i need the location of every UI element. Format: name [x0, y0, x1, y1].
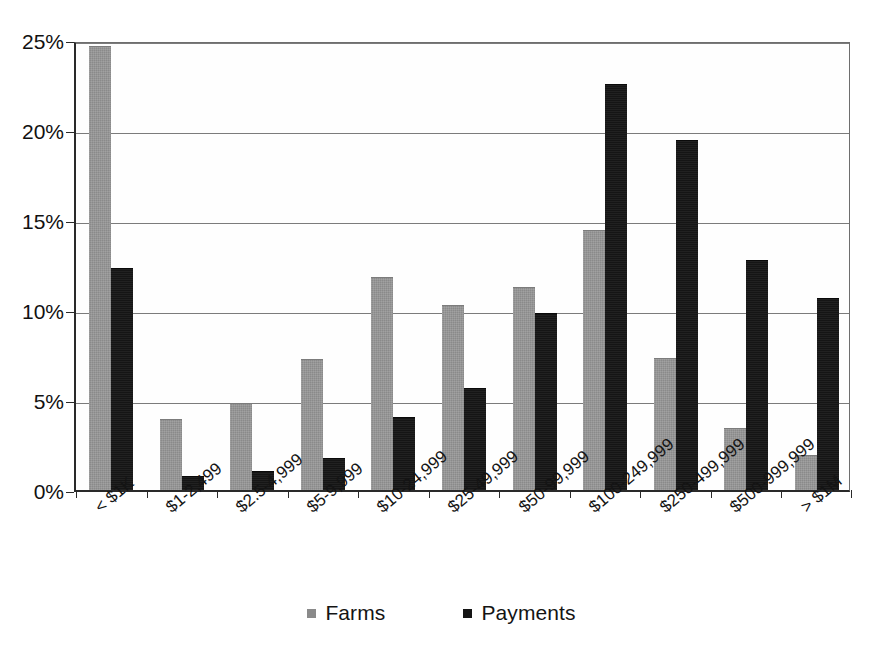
gridline [76, 133, 849, 134]
x-axis-tick-mark [499, 490, 500, 498]
x-axis-tick-mark [570, 490, 571, 498]
legend-item-payments[interactable]: Payments [463, 601, 575, 625]
bar-farms-3 [301, 359, 323, 490]
y-axis-tick-mark [66, 42, 74, 43]
chart-legend: FarmsPayments [0, 601, 883, 625]
bar-farms-4 [371, 277, 393, 490]
legend-swatch-icon [307, 609, 316, 618]
bar-payments-7 [605, 84, 627, 490]
x-axis-tick-mark [76, 490, 77, 498]
bar-farms-8 [654, 358, 676, 490]
x-axis-tick-mark [851, 490, 852, 498]
legend-label: Farms [325, 601, 385, 625]
bar-payments-6 [535, 313, 557, 490]
plot-area [74, 42, 850, 492]
legend-label: Payments [481, 601, 575, 625]
y-axis-tick-label: 0% [2, 481, 64, 502]
bar-payments-0 [111, 268, 133, 490]
y-axis-tick-label: 20% [2, 121, 64, 142]
legend-swatch-icon [463, 609, 472, 618]
bar-payments-10 [817, 298, 839, 490]
x-axis-tick-mark [711, 490, 712, 498]
x-axis-tick-mark [640, 490, 641, 498]
bar-farms-2 [230, 403, 252, 490]
y-axis-tick-mark [66, 492, 74, 493]
y-axis-tick-mark [66, 222, 74, 223]
legend-item-farms[interactable]: Farms [307, 601, 385, 625]
y-axis-tick-mark [66, 402, 74, 403]
y-axis-tick-label: 10% [2, 301, 64, 322]
bar-chart: 0%5%10%15%20%25% < $1K$1-2,499$2.5-4,999… [0, 0, 883, 647]
x-axis-tick-mark [217, 490, 218, 498]
y-axis-tick-label: 25% [2, 31, 64, 52]
x-axis-tick-mark [358, 490, 359, 498]
y-axis-tick-label: 5% [2, 391, 64, 412]
y-axis-tick-mark [66, 312, 74, 313]
y-axis-tick-mark [66, 132, 74, 133]
bar-payments-8 [676, 140, 698, 490]
x-axis-tick-mark [429, 490, 430, 498]
bar-payments-9 [746, 260, 768, 490]
x-axis-tick-mark [781, 490, 782, 498]
bar-farms-1 [160, 419, 182, 490]
gridline [76, 43, 849, 44]
x-axis-tick-mark [147, 490, 148, 498]
gridline [76, 223, 849, 224]
bar-farms-7 [583, 230, 605, 490]
bar-farms-0 [89, 46, 111, 490]
y-axis-tick-label: 15% [2, 211, 64, 232]
x-axis-tick-mark [288, 490, 289, 498]
